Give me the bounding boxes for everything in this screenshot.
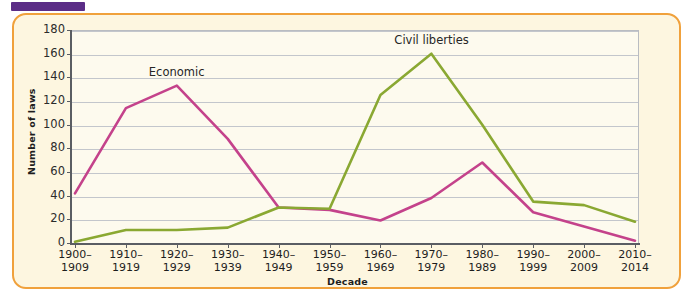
series-line-civil-liberties	[75, 54, 635, 242]
series-line-economic	[75, 86, 635, 241]
figure-root: 020406080100120140160180 Number of laws …	[0, 0, 695, 305]
series-label-civil-liberties: Civil liberties	[394, 33, 468, 47]
series-lines	[0, 0, 695, 305]
series-label-economic: Economic	[149, 65, 205, 79]
